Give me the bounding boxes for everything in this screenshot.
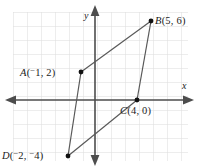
x-axis-label: x: [182, 80, 186, 91]
vertex-label-b-close: ): [182, 15, 186, 26]
vertex-point-d: [66, 154, 71, 159]
vertex-label-a: A(−1, 2): [20, 65, 55, 78]
grid-background: [13, 12, 188, 161]
vertex-label-c-close: ): [147, 105, 151, 116]
y-axis-label: y: [84, 10, 88, 21]
vertex-label-b-name: B: [155, 15, 162, 26]
vertex-label-a-close: ): [52, 67, 56, 78]
vertex-point-a: [79, 70, 84, 75]
vertex-label-b: B(5, 6): [155, 13, 186, 26]
vertex-label-d: D(−2, −4): [2, 148, 43, 161]
vertex-label-c: C(4, 0): [120, 103, 151, 116]
vertex-label-a-name: A: [20, 67, 27, 78]
y-axis-top-arrow: [91, 5, 100, 16]
vertex-label-d-close: ): [40, 150, 44, 161]
vertex-point-b: [149, 19, 154, 24]
coordinate-plane-figure: A(−1, 2) B(5, 6) C(4, 0) D(−2, −4) x y: [0, 0, 199, 167]
vertex-label-d-name: D: [2, 150, 10, 161]
vertex-point-c: [135, 98, 140, 103]
x-axis-left-arrow: [5, 96, 16, 105]
x-axis-right-arrow: [183, 96, 194, 105]
